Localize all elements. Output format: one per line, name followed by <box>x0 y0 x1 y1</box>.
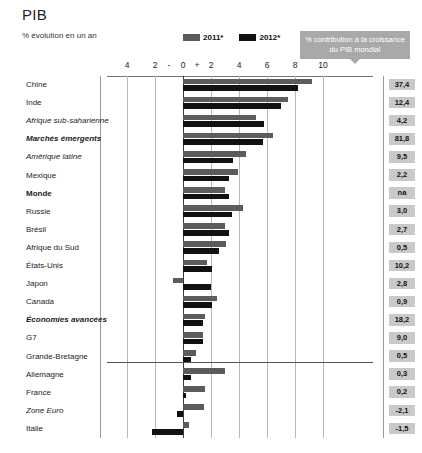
row-label: Grande-Bretagne <box>26 352 88 361</box>
bar-2012 <box>183 103 281 109</box>
axis-tick-label: 2 <box>209 60 214 70</box>
chart-row: Zone Euro-2,1 <box>0 402 422 420</box>
bar-2011 <box>183 241 226 247</box>
row-label: Zone Euro <box>26 406 63 415</box>
contribution-badge: 3,0 <box>389 205 415 217</box>
contribution-badge: 9,5 <box>389 151 415 163</box>
contribution-callout: % contribution à la croissance du PIB mo… <box>300 31 410 59</box>
bar-2011 <box>183 187 225 193</box>
row-label: Inde <box>26 98 42 107</box>
chart-row: Mexique2,2 <box>0 167 422 185</box>
legend-swatch-icon <box>239 34 256 41</box>
row-label: Afrique du Sud <box>26 243 79 252</box>
contribution-badge: 0,9 <box>389 296 415 308</box>
row-label: Canada <box>26 297 54 306</box>
bar-2011 <box>183 223 225 229</box>
row-label: Brésil <box>26 225 46 234</box>
chart-row: Russie3,0 <box>0 203 422 221</box>
row-label: États-Unis <box>26 261 63 270</box>
bar-2011 <box>183 205 243 211</box>
bar-2012 <box>183 393 186 399</box>
contribution-badge: -2,1 <box>389 405 415 417</box>
bar-2011 <box>173 278 183 284</box>
chart-row: Mondena <box>0 185 422 203</box>
axis-tick-label: 2 <box>153 60 158 70</box>
chart-row: États-Unis10,2 <box>0 257 422 275</box>
bar-2011 <box>183 169 238 175</box>
page-title: PIB <box>22 6 47 23</box>
axis-tick-label: 0 <box>181 60 186 70</box>
bar-2012 <box>183 85 298 91</box>
legend-label: 2011* <box>203 33 223 42</box>
chart-row: Afrique sub-saharienne4,2 <box>0 112 422 130</box>
contribution-badge: 2,7 <box>389 224 415 236</box>
legend-label: 2012* <box>259 33 280 42</box>
axis-tick-label: 4 <box>237 60 242 70</box>
bar-2011 <box>183 386 205 392</box>
axis-tick-label: 10 <box>318 60 327 70</box>
bar-2012 <box>152 429 183 435</box>
chart-row: Économies avancées18,2 <box>0 311 422 329</box>
pib-chart-panel: PIB % évolution en un an 2011* 2012* % c… <box>0 0 422 453</box>
contribution-badge: 81,8 <box>389 133 415 145</box>
bar-2012 <box>183 212 232 218</box>
contribution-badge: 4,2 <box>389 115 415 127</box>
contribution-badge: 0,5 <box>389 242 415 254</box>
chart-subtitle: % évolution en un an <box>22 31 97 40</box>
chart-row: Marchés émergents81,8 <box>0 130 422 148</box>
bar-2011 <box>183 151 246 157</box>
row-label: Russie <box>26 207 50 216</box>
row-label: Italie <box>26 424 43 433</box>
chart-row: Afrique du Sud0,5 <box>0 239 422 257</box>
contribution-badge: 10,2 <box>389 260 415 272</box>
row-label: Japon <box>26 279 48 288</box>
chart-row: Chine37,4 <box>0 76 422 94</box>
bar-2012 <box>183 176 229 182</box>
axis-tick-label: 6 <box>265 60 270 70</box>
bar-2011 <box>183 350 196 356</box>
row-label: Monde <box>26 189 52 198</box>
axis-tick-label: 4 <box>125 60 130 70</box>
row-label: Chine <box>26 80 47 89</box>
bar-2012 <box>177 411 183 417</box>
bar-2012 <box>183 320 203 326</box>
chart-row: Inde12,4 <box>0 94 422 112</box>
bar-2012 <box>183 357 191 363</box>
row-label: Marchés émergents <box>26 134 101 143</box>
legend-item-2012: 2012* <box>239 33 280 42</box>
bar-2011 <box>183 368 225 374</box>
contribution-badge: 2,2 <box>389 169 415 181</box>
row-label: G7 <box>26 333 37 342</box>
axis-tick-label: + <box>195 60 200 70</box>
contribution-badge: 18,2 <box>389 314 415 326</box>
contribution-badge: 0,2 <box>389 386 415 398</box>
row-label: France <box>26 388 51 397</box>
chart-row: Grande-Bretagne0,5 <box>0 348 422 366</box>
legend-swatch-icon <box>183 34 200 41</box>
bar-2011 <box>183 332 203 338</box>
bar-2011 <box>183 115 256 121</box>
contribution-badge: 9,0 <box>389 332 415 344</box>
row-label: Allemagne <box>26 370 64 379</box>
contribution-badge: 12,4 <box>389 97 415 109</box>
chart-row: Japon2,8 <box>0 275 422 293</box>
contribution-badge: 2,8 <box>389 278 415 290</box>
bar-2011 <box>183 260 207 266</box>
chart-legend: 2011* 2012* <box>183 33 280 42</box>
contribution-badge: 37,4 <box>389 79 415 91</box>
bar-2011 <box>183 404 204 410</box>
chart-row: Brésil2,7 <box>0 221 422 239</box>
bar-2012 <box>183 375 191 381</box>
bar-2012 <box>183 121 264 127</box>
chart-row: Allemagne0,3 <box>0 366 422 384</box>
bar-2011 <box>183 97 288 103</box>
bar-2012 <box>183 339 203 345</box>
chart-row: Amérique latine9,5 <box>0 148 422 166</box>
chart-row: Italie-1,5 <box>0 420 422 438</box>
legend-item-2011: 2011* <box>183 33 223 42</box>
bar-2012 <box>183 248 219 254</box>
bar-2012 <box>183 302 212 308</box>
axis-tick-label: 8 <box>293 60 298 70</box>
row-label: Économies avancées <box>26 315 107 324</box>
bar-2012 <box>183 266 212 272</box>
